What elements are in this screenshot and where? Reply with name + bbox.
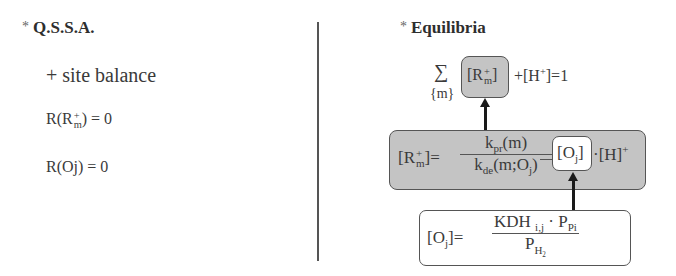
- h-plus-factor: ·[H]+: [593, 143, 629, 165]
- arrow-up-icon: [480, 98, 490, 107]
- arrow-up-icon: [568, 172, 578, 181]
- arrow-shaft-upper: [484, 106, 487, 131]
- bullet-star: *: [22, 19, 29, 34]
- oj-fraction: KDH i,j · PPi PH2: [492, 212, 579, 259]
- qssa-equation-oj: R(Oj) = 0: [46, 158, 108, 176]
- rm-sum-term: [R+m]: [467, 66, 497, 86]
- sigma-index: {m}: [430, 86, 454, 102]
- h-plus-term: +[H+]=1: [514, 66, 568, 85]
- vertical-divider: [317, 22, 319, 261]
- oj-inner-term: [Oj]: [557, 143, 584, 164]
- qssa-title: *Q.S.S.A.: [22, 18, 94, 38]
- arrow-shaft-lower: [572, 180, 575, 211]
- qssa-equation-rm: R(R+m) = 0: [46, 110, 112, 130]
- site-balance-label: + site balance: [46, 64, 156, 87]
- bullet-star: *: [400, 19, 407, 34]
- rm-lhs: [R+m]=: [398, 148, 440, 169]
- oj-lhs: [Oj]=: [427, 228, 463, 249]
- rm-fraction: kpr(m) kde(m;Oj): [460, 133, 552, 177]
- sigma-symbol: ∑: [434, 60, 448, 83]
- equilibria-title: *Equilibria: [400, 18, 486, 38]
